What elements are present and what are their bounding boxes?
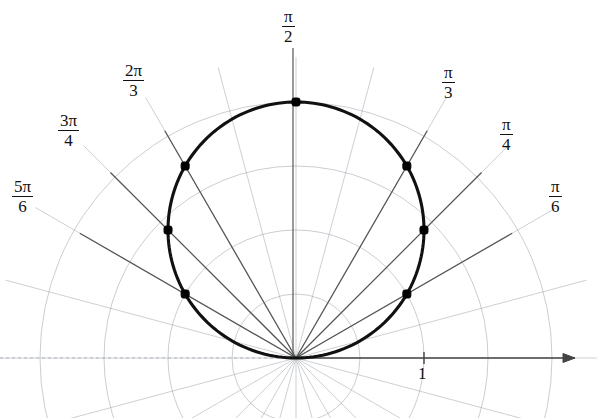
polar-plot-figure: π 2 2π 3 3π 4 5π 6 π 3 π 4 π 6 1 (0, 0, 597, 418)
angle-label-numerator: 5π (12, 178, 33, 196)
angle-label-denominator: 2 (282, 26, 295, 45)
angle-label-pi-over-4: π 4 (500, 116, 513, 153)
angle-label-2pi-over-3: 2π 3 (123, 62, 144, 99)
angle-label-denominator: 6 (12, 196, 33, 215)
angle-label-denominator: 4 (500, 134, 513, 153)
angle-label-numerator: π (282, 8, 295, 26)
angle-label-denominator: 3 (442, 82, 455, 101)
angle-label-pi-over-3: π 3 (442, 64, 455, 101)
angle-label-pi-over-2: π 2 (282, 8, 295, 45)
angle-label-5pi-over-6: 5π 6 (12, 178, 33, 215)
angle-label-3pi-over-4: 3π 4 (58, 112, 79, 149)
angle-label-pi-over-6: π 6 (549, 178, 562, 215)
x-axis-tick-label-1: 1 (418, 364, 427, 384)
angle-label-numerator: π (500, 116, 513, 134)
angle-label-denominator: 4 (58, 130, 79, 149)
angle-label-denominator: 3 (123, 80, 144, 99)
polar-plot-canvas (0, 0, 597, 418)
angle-label-numerator: π (442, 64, 455, 82)
horizontal-axis (0, 48, 575, 364)
angle-label-numerator: π (549, 178, 562, 196)
angle-label-numerator: 3π (58, 112, 79, 130)
angle-label-denominator: 6 (549, 196, 562, 215)
angle-label-numerator: 2π (123, 62, 144, 80)
polar-grid-rays (0, 57, 597, 418)
